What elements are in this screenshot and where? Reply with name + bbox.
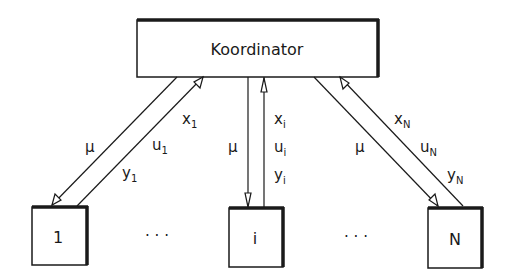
link-subsystem-1: μ x1 u1 y1: [52, 77, 203, 206]
arrow-down-icon: [429, 194, 438, 206]
y1-label: y1: [122, 164, 137, 184]
ui-label: ui: [274, 138, 286, 158]
ellipsis-left: · · ·: [145, 227, 169, 245]
coordinator-label: Koordinator: [211, 40, 304, 59]
ellipsis-right: · · ·: [344, 228, 368, 246]
subsystem-box-1: 1: [32, 206, 88, 265]
coordination-diagram: Koordinator μ x1 u1 y1 μ xi ui yi μ xN u…: [0, 0, 509, 280]
mu-label: μ: [228, 138, 238, 156]
arrow-up-icon: [340, 77, 349, 89]
mu-label: μ: [355, 138, 365, 156]
arrow-up-icon: [194, 77, 203, 88]
mu-label: μ: [85, 138, 95, 156]
arrow-up-icon: [261, 78, 267, 92]
subsystem-label: N: [449, 230, 461, 249]
arrow-down-icon: [245, 193, 251, 207]
xi-label: xi: [274, 110, 286, 130]
yN-label: yN: [447, 166, 463, 186]
subsystem-box-N: N: [428, 207, 483, 268]
u1-label: u1: [152, 136, 168, 156]
subsystem-box-i: i: [229, 207, 284, 267]
coordinator-box: Koordinator: [137, 19, 379, 77]
link-subsystem-N: μ xN uN yN: [314, 77, 463, 206]
link-subsystem-i: μ xi ui yi: [228, 77, 286, 207]
yi-label: yi: [274, 166, 286, 186]
subsystem-label: 1: [53, 228, 63, 247]
xN-label: xN: [394, 110, 410, 130]
subsystem-label: i: [253, 229, 257, 248]
uN-label: uN: [420, 138, 437, 158]
arrow-down-icon: [52, 194, 61, 205]
x1-label: x1: [182, 110, 197, 130]
